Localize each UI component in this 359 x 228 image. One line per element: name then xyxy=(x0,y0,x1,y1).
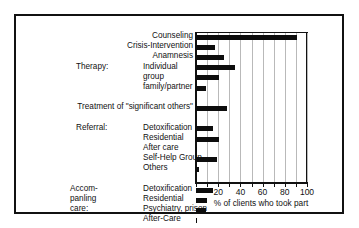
category-label-therapy-group: group xyxy=(30,72,193,82)
bar-referral-residential xyxy=(196,137,219,142)
label-text: Treatment of "significant others" xyxy=(77,102,193,112)
bar-treatment-significant-others xyxy=(196,106,227,111)
bar-crisis-intervention xyxy=(196,45,215,50)
label-text: Counseling xyxy=(152,31,193,41)
label-spacer xyxy=(30,113,193,123)
bar-referral-after-care xyxy=(196,147,197,152)
label-spacer xyxy=(30,92,193,102)
x-tick-0 xyxy=(196,183,197,187)
category-label-anamnesis: Anamnesis xyxy=(30,51,193,61)
x-ticklabel-20: 20 xyxy=(206,187,230,197)
category-label-referral-after-care: After care xyxy=(30,143,193,153)
category-label-acc-after-care: After-Care xyxy=(30,214,193,224)
bar-referral-self-help xyxy=(196,157,217,162)
label-spacer xyxy=(30,174,193,184)
bar-acc-psychiatry xyxy=(196,208,206,213)
x-ticklabel-100: 100 xyxy=(295,187,319,197)
category-label-acc-psychiatry: care:Psychiatry, prison xyxy=(30,204,193,214)
gridline-40 xyxy=(240,33,241,182)
label-text: Crisis-Intervention xyxy=(127,41,193,51)
label-group-prefix: Referral: xyxy=(76,123,107,133)
label-text: Residential xyxy=(143,133,184,143)
plot-area xyxy=(196,33,307,182)
gridline-50 xyxy=(252,33,253,182)
category-label-counseling: Counseling xyxy=(30,31,193,41)
x-ticklabel-80: 80 xyxy=(273,187,297,197)
category-label-treatment-significant-others: Treatment of "significant others" xyxy=(30,102,193,112)
label-text: After-Care xyxy=(143,214,181,224)
label-text: After care xyxy=(143,143,179,153)
bar-anamnesis xyxy=(196,55,224,60)
label-text: Self-Help Group xyxy=(143,153,202,163)
bar-chart: CounselingCrisis-InterventionAnamnesisTh… xyxy=(0,0,359,228)
label-text: Detoxification xyxy=(143,184,192,194)
category-label-column: CounselingCrisis-InterventionAnamnesisTh… xyxy=(30,31,193,225)
bar-referral-detoxification xyxy=(196,126,213,131)
category-label-referral-self-help: Self-Help Group xyxy=(30,153,193,163)
category-label-referral-residential: Residential xyxy=(30,133,193,143)
label-text: Others xyxy=(143,163,168,173)
bar-therapy-individual xyxy=(196,65,235,70)
label-group-prefix: Therapy: xyxy=(76,62,108,72)
category-label-therapy-individual: Therapy:Individual xyxy=(30,62,193,72)
bar-therapy-group xyxy=(196,75,219,80)
gridline-70 xyxy=(274,33,275,182)
bar-therapy-family xyxy=(196,86,206,91)
gridline-90 xyxy=(296,33,297,182)
gridline-100 xyxy=(307,33,308,182)
label-text: family/partner xyxy=(143,82,193,92)
gridline-60 xyxy=(263,33,264,182)
label-group-prefix: panling xyxy=(70,194,96,204)
label-group-prefix: care: xyxy=(70,204,88,214)
x-ticklabel-60: 60 xyxy=(251,187,275,197)
label-text: Anamnesis xyxy=(152,51,193,61)
bar-counseling xyxy=(196,35,297,40)
label-text: Residential xyxy=(143,194,184,204)
label-text: Detoxification xyxy=(143,123,192,133)
category-label-therapy-family: family/partner xyxy=(30,82,193,92)
bar-acc-after-care xyxy=(196,218,197,223)
category-label-referral-detoxification: Referral:Detoxification xyxy=(30,123,193,133)
category-label-acc-residential: panlingResidential xyxy=(30,194,193,204)
label-text: Individual xyxy=(143,62,178,72)
bar-referral-others xyxy=(196,167,199,172)
x-ticklabel-40: 40 xyxy=(228,187,252,197)
label-group-prefix: Accom- xyxy=(70,184,98,194)
label-text: group xyxy=(143,72,164,82)
x-axis-title: % of clients who took part xyxy=(196,198,326,208)
category-label-acc-detoxification: Accom-Detoxification xyxy=(30,184,193,194)
gridline-80 xyxy=(285,33,286,182)
gridline-30 xyxy=(229,33,230,182)
category-label-crisis-intervention: Crisis-Intervention xyxy=(30,41,193,51)
category-label-referral-others: Others xyxy=(30,163,193,173)
